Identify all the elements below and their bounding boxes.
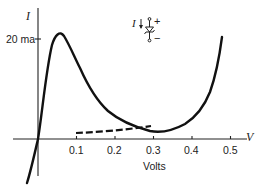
ordinary-diode-dashed-curve bbox=[76, 126, 151, 133]
inset-plus-label: + bbox=[154, 15, 160, 27]
x-tick-label: 0.4 bbox=[184, 144, 199, 156]
x-tick-labels: 0.1 0.2 0.3 0.4 0.5 bbox=[69, 144, 238, 156]
arrow-head-icon bbox=[139, 25, 143, 29]
tunnel-diode-curve bbox=[27, 33, 222, 183]
x-tick-label: 0.5 bbox=[223, 144, 238, 156]
x-axis-title: Volts bbox=[143, 160, 166, 172]
x-tick-label: 0.2 bbox=[107, 144, 122, 156]
x-axis-symbol: V bbox=[246, 130, 255, 144]
inset-current-label: I bbox=[131, 17, 137, 29]
inset-minus-label: − bbox=[154, 32, 160, 44]
x-tick-label: 0.1 bbox=[69, 144, 84, 156]
y-axis-symbol: I bbox=[25, 9, 31, 23]
iv-characteristic-chart: 20 ma I 0.1 0.2 0.3 0.4 0.5 V Volts I + bbox=[0, 0, 261, 189]
x-tick-label: 0.3 bbox=[146, 144, 161, 156]
y-tick-label: 20 ma bbox=[6, 33, 35, 45]
tunnel-diode-symbol-inset: I + − bbox=[131, 15, 160, 44]
